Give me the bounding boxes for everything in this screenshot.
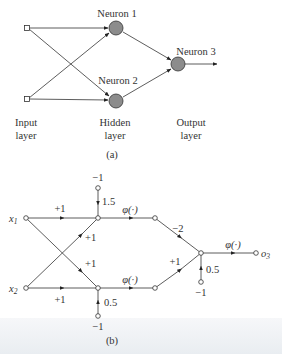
figure-a xyxy=(25,21,218,108)
input-node-1 xyxy=(25,26,30,31)
edge-x1-h2b xyxy=(81,271,98,288)
weight-x2-h2: +1 xyxy=(54,294,65,305)
activation-h1: φ(·) xyxy=(122,204,138,216)
weight-h1-o: −2 xyxy=(172,223,183,234)
neural-network-figure: Neuron 1 Neuron 2 Neuron 3 Input layer H… xyxy=(0,0,282,354)
edge-h2-o-b xyxy=(180,253,201,270)
node-o-sum xyxy=(199,251,204,256)
edge-h2-o-a xyxy=(155,270,180,288)
o3-label: o3 xyxy=(261,248,270,261)
node-bias-o xyxy=(199,280,204,285)
weight-x2-h1: +1 xyxy=(85,232,96,243)
node-x1 xyxy=(24,216,29,221)
bias-o-weight: 0.5 xyxy=(206,264,219,275)
hidden-layer-label-1: Hidden xyxy=(100,117,132,128)
input-node-2 xyxy=(25,97,30,102)
node-o3 xyxy=(254,251,259,256)
bias-o-input: −1 xyxy=(195,287,206,298)
activation-h2: φ(·) xyxy=(122,274,138,286)
weight-h2-o: +1 xyxy=(169,256,180,267)
neuron-1-label: Neuron 1 xyxy=(97,8,136,19)
bias-h2-input: −1 xyxy=(92,321,103,332)
caption-b: (b) xyxy=(106,335,119,347)
neuron-3-circle xyxy=(171,57,185,71)
bias-h2-weight: 0.5 xyxy=(104,297,117,308)
hidden-layer-label-2: layer xyxy=(105,130,126,141)
node-h1-out xyxy=(153,216,158,221)
input-layer-label-2: layer xyxy=(16,130,37,141)
figure-b-labels: x1 x2 +1 +1 +1 +1 −2 +1 −1 1.5 0.5 −1 0.… xyxy=(8,172,270,347)
caption-a: (a) xyxy=(106,149,118,161)
node-h2-out xyxy=(153,286,158,291)
node-h1-sum xyxy=(96,216,101,221)
output-layer-label-2: layer xyxy=(181,130,202,141)
edge-n1-n3 xyxy=(123,32,171,60)
activation-o: φ(·) xyxy=(225,239,241,251)
weight-x1-h2: +1 xyxy=(85,258,96,269)
node-bias-h2 xyxy=(96,314,101,319)
edge-x1-h2a xyxy=(26,218,81,271)
x2-label: x2 xyxy=(8,283,18,296)
input-layer-label-1: Input xyxy=(15,117,37,128)
edge-in2-n2 xyxy=(29,99,108,100)
edge-in2-n1 xyxy=(29,33,109,98)
bias-h1-input: −1 xyxy=(92,172,103,183)
neuron-2-label: Neuron 2 xyxy=(98,75,137,86)
output-layer-label-1: Output xyxy=(176,117,205,128)
node-x2 xyxy=(24,286,29,291)
edge-x2-h1a xyxy=(26,235,81,288)
bias-h1-weight: 1.5 xyxy=(102,196,115,207)
neuron-1-circle xyxy=(109,21,123,35)
node-h2-sum xyxy=(96,286,101,291)
x1-label: x1 xyxy=(8,213,17,226)
edge-h1-o-b xyxy=(180,237,201,253)
node-bias-h1 xyxy=(96,186,101,191)
neuron-2-circle xyxy=(109,94,123,108)
neuron-3-label: Neuron 3 xyxy=(176,46,215,57)
weight-x1-h1: +1 xyxy=(54,203,65,214)
edge-in1-n2 xyxy=(29,29,109,96)
